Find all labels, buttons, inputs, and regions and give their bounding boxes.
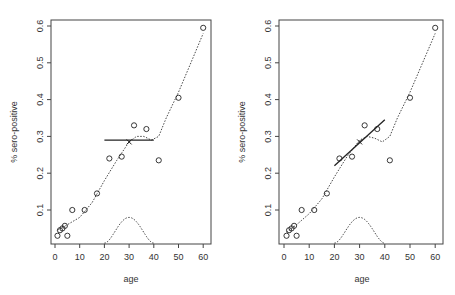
x-tick-label: 50 <box>173 252 183 262</box>
data-point <box>337 156 342 161</box>
smoothed-curve <box>58 33 204 230</box>
y-tick-label: 0.5 <box>35 57 45 70</box>
x-tick-label: 50 <box>405 252 415 262</box>
left-xlabel: age <box>123 274 138 284</box>
data-point <box>176 95 181 100</box>
data-point <box>119 154 124 159</box>
y-tick-label: 0.4 <box>35 93 45 106</box>
data-point <box>387 158 392 163</box>
right-xlabel: age <box>354 274 369 284</box>
data-point <box>294 233 299 238</box>
y-tick-label: 0.1 <box>263 204 273 217</box>
data-point <box>144 126 149 131</box>
data-point <box>299 207 304 212</box>
x-tick-label: 30 <box>355 252 365 262</box>
x-tick-label: 0 <box>52 252 57 262</box>
y-tick-label: 0.2 <box>263 167 273 180</box>
data-point <box>362 123 367 128</box>
right-ylabel: % sero-positive <box>237 101 247 163</box>
x-tick-label: 20 <box>99 252 109 262</box>
x-tick-label: 10 <box>75 252 85 262</box>
y-tick-label: 0.5 <box>263 57 273 70</box>
y-tick-label: 0.6 <box>263 20 273 33</box>
data-point <box>284 233 289 238</box>
x-tick-label: 40 <box>380 252 390 262</box>
x-tick-label: 30 <box>124 252 134 262</box>
figure: 01020304050600.10.20.30.40.50.6 01020304… <box>0 0 455 295</box>
smoothed-curve <box>287 33 436 232</box>
y-tick-label: 0.4 <box>263 93 273 106</box>
data-point <box>107 156 112 161</box>
data-point <box>349 154 354 159</box>
y-tick-label: 0.6 <box>35 20 45 33</box>
x-tick-label: 0 <box>281 252 286 262</box>
data-point <box>407 95 412 100</box>
data-point <box>55 233 60 238</box>
kernel-weight-curve <box>334 217 384 243</box>
x-tick-label: 60 <box>430 252 440 262</box>
left-ylabel: % sero-positive <box>9 101 19 163</box>
x-tick-label: 40 <box>149 252 159 262</box>
data-point <box>65 233 70 238</box>
y-tick-label: 0.1 <box>35 204 45 217</box>
plot-frame <box>279 20 443 244</box>
y-tick-label: 0.2 <box>35 167 45 180</box>
y-tick-label: 0.3 <box>35 130 45 143</box>
data-point <box>433 25 438 30</box>
y-tick-label: 0.3 <box>263 130 273 143</box>
data-point <box>131 123 136 128</box>
left-plot-panel: 01020304050600.10.20.30.40.50.6 <box>35 20 211 262</box>
kernel-weight-curve <box>104 217 153 243</box>
right-plot-panel: 01020304050600.10.20.30.40.50.6 <box>263 20 443 262</box>
data-point <box>156 158 161 163</box>
data-point <box>201 25 206 30</box>
x-tick-label: 10 <box>304 252 314 262</box>
x-tick-label: 20 <box>329 252 339 262</box>
data-point <box>70 207 75 212</box>
x-tick-label: 60 <box>198 252 208 262</box>
